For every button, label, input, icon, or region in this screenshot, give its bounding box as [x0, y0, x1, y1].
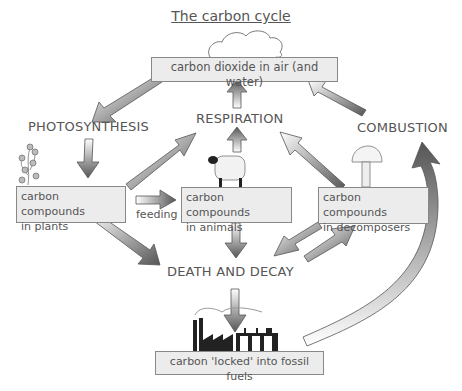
arrow-death-to-fossil	[224, 289, 246, 332]
arrow-animals-to-respiration	[227, 127, 247, 152]
decomposers-box: carbon compounds in decomposers	[318, 187, 429, 224]
photosynthesis-label: PHOTOSYNTHESIS	[28, 119, 149, 134]
animals-line2: in animals	[186, 220, 287, 235]
arrow-photosynthesis-to-plants	[77, 139, 99, 178]
arrow-plants-to-respiration	[126, 133, 196, 190]
plants-line2: in plants	[21, 219, 121, 234]
death-decay-label: DEATH AND DECAY	[167, 264, 294, 279]
arrow-feeding	[136, 190, 176, 209]
cloud-icon	[209, 31, 282, 57]
feeding-label: feeding	[136, 208, 177, 221]
arrow-decomposers-to-respiration	[280, 132, 345, 190]
fossil-box: carbon 'locked' into fossil fuels	[155, 351, 324, 375]
diagram-title: The carbon cycle	[0, 8, 462, 24]
animals-line1: carbon compounds	[186, 190, 287, 220]
decomposers-line1: carbon compounds	[323, 190, 424, 220]
animals-box: carbon compounds in animals	[181, 187, 292, 223]
respiration-label: RESPIRATION	[196, 111, 284, 126]
co2-box: carbon dioxide in air (and water)	[151, 57, 338, 82]
arrow-co2-to-photosynthesis	[92, 76, 162, 122]
plants-line1: carbon compounds	[21, 189, 121, 219]
decomposers-line2: in decomposers	[323, 220, 424, 235]
sheep-icon	[208, 156, 245, 187]
mushroom-icon	[352, 146, 382, 187]
arrow-combustion-to-co2	[308, 80, 366, 116]
plants-box: carbon compounds in plants	[16, 186, 126, 223]
combustion-label: COMBUSTION	[357, 120, 448, 135]
plant-icon	[19, 144, 39, 185]
